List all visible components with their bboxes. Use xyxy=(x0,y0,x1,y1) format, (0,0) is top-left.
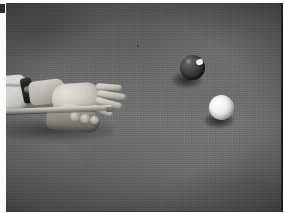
knuckle-two xyxy=(80,114,90,123)
player-hands-group xyxy=(6,75,122,137)
object-ball-gloss xyxy=(185,59,192,64)
cue-ball-highlight xyxy=(214,99,223,106)
object-ball-number-spot xyxy=(195,58,204,66)
cue-ball xyxy=(209,95,234,120)
photograph xyxy=(6,3,283,212)
cloth-speck xyxy=(137,45,139,47)
screenshot-root: 5 xyxy=(0,0,284,213)
cue-tip xyxy=(106,107,113,112)
object-ball xyxy=(180,55,205,80)
knuckle-one xyxy=(70,112,80,121)
knuckle-three xyxy=(90,116,99,124)
corner-mark: 5 xyxy=(0,4,5,13)
